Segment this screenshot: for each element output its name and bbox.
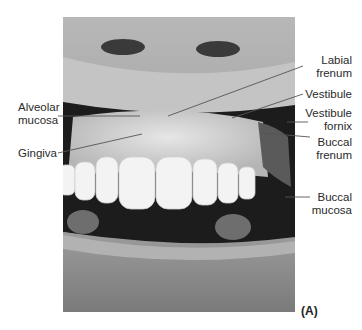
line-gingiva [58,134,142,153]
label-labial-frenum: Labial frenum [316,54,352,80]
label-alveolar-mucosa: Alveolar mucosa [18,101,60,127]
leader-lines [0,0,362,330]
line-buccal-frenum [262,133,310,137]
label-buccal-mucosa: Buccal mucosa [312,191,352,217]
line-labial-frenum [168,66,303,116]
label-vestibule-fornix: Vestibule fornix [305,107,352,133]
label-buccal-frenum: Buccal frenum [316,136,352,162]
label-gingiva: Gingiva [18,147,57,160]
anatomy-figure: Alveolar mucosa Gingiva Labial frenum Ve… [0,0,362,330]
line-vestibule [232,94,303,118]
panel-label: (A) [301,304,318,318]
label-vestibule: Vestibule [305,88,352,101]
